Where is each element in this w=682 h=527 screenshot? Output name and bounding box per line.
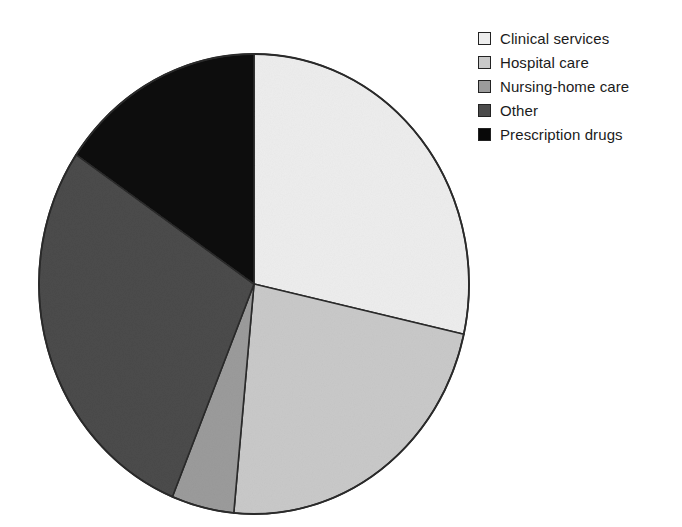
legend-swatch-nursing-home-care [478,80,491,93]
pie-chart-plot-area [38,52,472,516]
pie-chart-svg [38,52,472,516]
legend-item-clinical-services[interactable]: Clinical services [478,26,678,50]
chart-legend: Clinical services Hospital care Nursing-… [478,26,678,146]
legend-item-nursing-home-care[interactable]: Nursing-home care [478,74,678,98]
legend-label-other: Other [500,103,538,118]
pie-chart-figure: Clinical services Hospital care Nursing-… [0,0,682,527]
legend-item-prescription-drugs[interactable]: Prescription drugs [478,122,678,146]
legend-item-other[interactable]: Other [478,98,678,122]
legend-swatch-other [478,104,491,117]
legend-swatch-hospital-care [478,56,491,69]
legend-label-prescription-drugs: Prescription drugs [500,127,623,142]
legend-swatch-prescription-drugs [478,128,491,141]
pie-slices-group [39,54,469,514]
legend-item-hospital-care[interactable]: Hospital care [478,50,678,74]
legend-label-hospital-care: Hospital care [500,55,589,70]
legend-label-nursing-home-care: Nursing-home care [500,79,629,94]
legend-label-clinical-services: Clinical services [500,31,609,46]
legend-swatch-clinical-services [478,32,491,45]
